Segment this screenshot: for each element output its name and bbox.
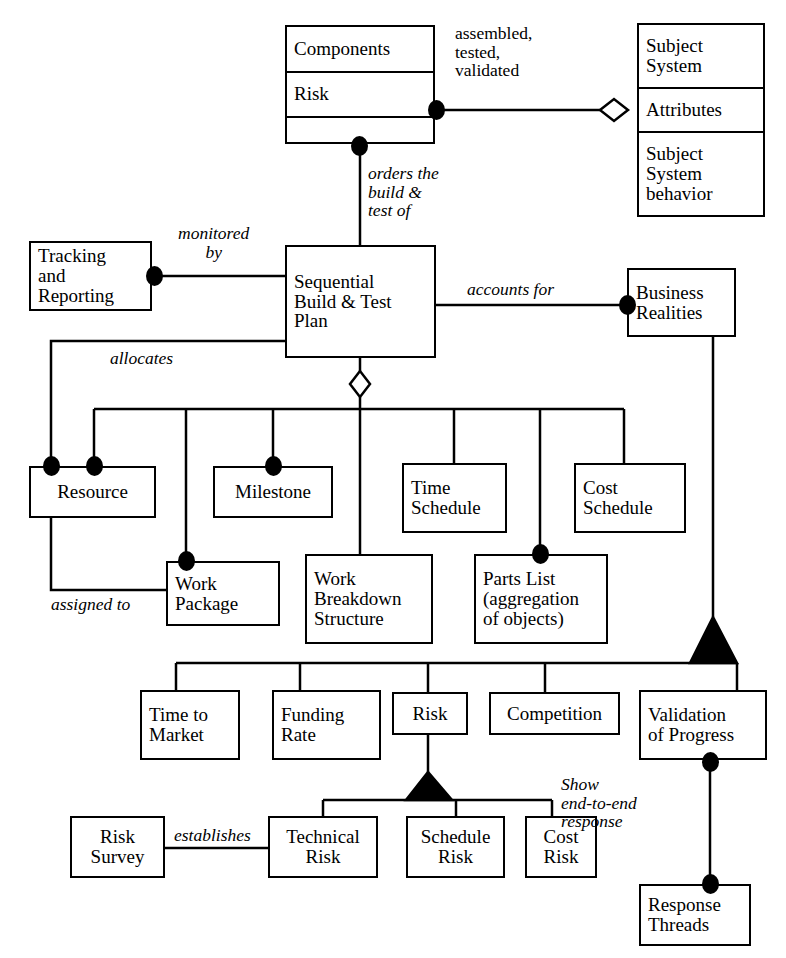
- multiplicity-dot-milestone: [265, 456, 282, 476]
- class-box-business-realities[interactable]: Business Realities: [627, 268, 736, 337]
- class-box-funding-rate[interactable]: Funding Rate: [272, 690, 381, 760]
- class-box-tracking-and-reporting[interactable]: Tracking and Reporting: [29, 241, 152, 311]
- class-box-risk-survey[interactable]: Risk Survey: [70, 816, 165, 878]
- label-establishes: establishes: [174, 826, 251, 845]
- class-business-realities-name: Business Realities: [629, 270, 734, 335]
- multiplicity-dot-business-realities: [619, 295, 636, 315]
- label-assembled-tested-validated: assembled, tested, validated: [455, 24, 532, 80]
- class-components-name: Components: [287, 27, 433, 71]
- class-box-response-threads[interactable]: Response Threads: [639, 884, 751, 946]
- class-box-work-package[interactable]: Work Package: [166, 561, 280, 626]
- multiplicity-dot-components-plan: [351, 136, 368, 156]
- label-orders-the-build-test-of: orders the build & test of: [368, 164, 439, 220]
- class-box-work-breakdown-structure[interactable]: Work Breakdown Structure: [305, 554, 433, 644]
- link-resource-work-package: [51, 518, 166, 590]
- class-work-breakdown-structure-name: Work Breakdown Structure: [307, 556, 431, 642]
- multiplicity-dot-resource-bar: [86, 456, 103, 476]
- class-subject-system-attributes: Attributes: [639, 87, 763, 131]
- class-work-package-name: Work Package: [168, 563, 278, 624]
- multiplicity-dot-response-threads: [702, 874, 719, 894]
- class-box-schedule-risk[interactable]: Schedule Risk: [406, 816, 505, 878]
- class-box-sequential-build-test-plan[interactable]: Sequential Build & Test Plan: [285, 245, 436, 358]
- class-box-time-to-market[interactable]: Time to Market: [140, 690, 240, 760]
- class-box-parts-list[interactable]: Parts List (aggregation of objects): [474, 554, 608, 644]
- class-response-threads-name: Response Threads: [641, 886, 749, 944]
- class-funding-rate-name: Funding Rate: [274, 692, 379, 758]
- class-subject-system-name: Subject System: [639, 25, 763, 87]
- class-cost-schedule-name: Cost Schedule: [576, 465, 684, 531]
- label-monitored-by: monitored by: [178, 224, 249, 261]
- class-box-validation-of-progress[interactable]: Validation of Progress: [639, 690, 767, 760]
- class-schedule-risk-name: Schedule Risk: [408, 818, 503, 876]
- class-technical-risk-name: Technical Risk: [270, 818, 376, 876]
- multiplicity-dot-tracking: [146, 266, 163, 286]
- class-risk-survey-name: Risk Survey: [72, 818, 163, 876]
- label-allocates: allocates: [110, 349, 173, 368]
- class-components-attribute-risk: Risk: [287, 71, 433, 117]
- class-tracking-and-reporting-name: Tracking and Reporting: [31, 243, 150, 309]
- multiplicity-dot-parts-list: [532, 544, 549, 564]
- multiplicity-dot-components-assoc: [428, 100, 445, 120]
- class-subject-system-behavior: Subject System behavior: [639, 131, 763, 215]
- label-assigned-to: assigned to: [51, 595, 130, 614]
- multiplicity-dot-work-package: [178, 551, 195, 571]
- label-accounts-for: accounts for: [467, 280, 554, 299]
- class-box-time-schedule[interactable]: Time Schedule: [402, 463, 507, 533]
- class-time-schedule-name: Time Schedule: [404, 465, 505, 531]
- aggregation-diamond-plan: [350, 371, 370, 397]
- class-box-cost-schedule[interactable]: Cost Schedule: [574, 463, 686, 533]
- multiplicity-dot-validation-of-progress: [702, 752, 719, 772]
- class-validation-of-progress-name: Validation of Progress: [641, 692, 765, 758]
- class-time-to-market-name: Time to Market: [142, 692, 238, 758]
- class-box-components[interactable]: Components Risk: [285, 25, 435, 144]
- class-box-competition[interactable]: Competition: [489, 692, 620, 735]
- class-box-technical-risk[interactable]: Technical Risk: [268, 816, 378, 878]
- multiplicity-dot-resource-allocates: [43, 456, 60, 476]
- label-show-end-to-end-response: Show end-to-end response: [561, 775, 637, 831]
- uml-class-diagram: Components Risk Subject System Attribute…: [0, 0, 786, 958]
- class-risk-name: Risk: [394, 694, 466, 733]
- class-box-subject-system[interactable]: Subject System Attributes Subject System…: [637, 23, 765, 217]
- generalization-triangle-risk: [406, 772, 452, 800]
- class-parts-list-name: Parts List (aggregation of objects): [476, 556, 606, 642]
- generalization-triangle-business-realities: [690, 617, 737, 663]
- class-sequential-build-test-plan-name: Sequential Build & Test Plan: [287, 247, 434, 356]
- class-box-risk[interactable]: Risk: [392, 692, 468, 735]
- aggregation-diamond-subject-system: [600, 99, 628, 121]
- class-competition-name: Competition: [491, 694, 618, 733]
